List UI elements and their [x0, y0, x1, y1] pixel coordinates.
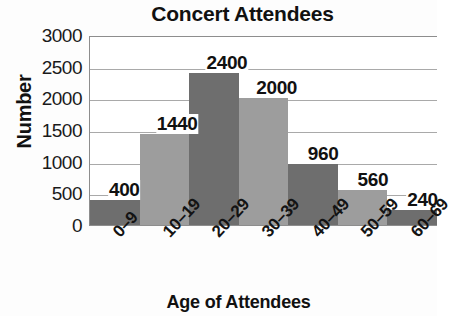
y-axis-tick: 1500 [42, 120, 82, 142]
bar-slot [189, 37, 239, 225]
bar-slot [387, 37, 437, 225]
bar-slot [288, 37, 338, 225]
y-axis-tick: 500 [52, 183, 82, 205]
y-axis-tick-labels: 300025002000150010005000 [22, 36, 86, 226]
bar-slot [338, 37, 388, 225]
y-axis-tick: 2000 [42, 88, 82, 110]
bar-slot [140, 37, 190, 225]
x-axis-tick-labels: 0–910–1920–2930–3940–4950–5960–69 [89, 228, 437, 288]
y-axis-tick: 2500 [42, 57, 82, 79]
y-axis-tick: 3000 [42, 25, 82, 47]
bar-slot [239, 37, 289, 225]
y-axis-tick: 0 [72, 215, 82, 237]
y-axis-tick: 1000 [42, 152, 82, 174]
chart-title: Concert Attendees [0, 2, 437, 26]
bar-slot [90, 37, 140, 225]
x-axis-title: Age of Attendees [0, 292, 437, 313]
